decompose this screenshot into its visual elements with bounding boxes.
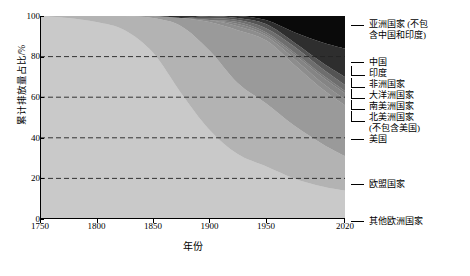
- y-tick-mark-20: [40, 178, 44, 179]
- x-tick-label-1900: 1900: [186, 222, 232, 231]
- y-tick-label-20: 20: [10, 174, 40, 183]
- legend-label-oceania: 大洋洲国家: [369, 90, 469, 101]
- legend-item-north-america[interactable]: 北美洲国家 (不包含美国): [369, 112, 469, 133]
- legend-item-oceania[interactable]: 大洋洲国家: [369, 90, 469, 101]
- legend-label-north-america: 北美洲国家 (不包含美国): [369, 112, 469, 133]
- legend-bracket-south-america: [351, 100, 365, 110]
- y-tick-mark-60: [40, 97, 44, 98]
- x-tick-mark-1900: [209, 219, 210, 223]
- legend-item-africa[interactable]: 非洲国家: [369, 79, 469, 90]
- legend-label-south-america: 南美洲国家: [369, 101, 469, 112]
- y-tick-mark-40: [40, 138, 44, 139]
- legend-item-usa[interactable]: 美国: [369, 134, 469, 145]
- x-tick-mark-1850: [153, 219, 154, 223]
- x-tick-label-1800: 1800: [74, 222, 120, 231]
- legend-item-asia-other[interactable]: 亚洲国家 (不包 含中国和印度): [369, 19, 469, 40]
- stacked-area-svg: [40, 16, 345, 219]
- x-tick-mark-1950: [266, 219, 267, 223]
- y-axis: 100 80 60 40 20 0 累计排放量占比/%: [0, 0, 40, 276]
- legend: 亚洲国家 (不包 含中国和印度) 中国 印度 非洲国家 大洋洲国家: [345, 0, 470, 276]
- legend-dash-usa: [351, 139, 364, 140]
- x-tick-mark-1750: [40, 219, 41, 223]
- legend-bracket-africa: [351, 78, 365, 88]
- y-axis-title: 累计排放量占比/%: [14, 20, 28, 150]
- legend-item-india[interactable]: 印度: [369, 68, 469, 79]
- legend-bracket-oceania: [351, 89, 365, 99]
- legend-label-africa: 非洲国家: [369, 79, 469, 90]
- y-tick-mark-80: [40, 57, 44, 58]
- legend-item-eu[interactable]: 欧盟国家: [369, 179, 469, 190]
- y-tick-mark-100: [40, 16, 44, 17]
- legend-dash-asia-other: [351, 25, 364, 26]
- legend-dash-eu: [351, 184, 364, 185]
- legend-dash-china: [351, 62, 364, 63]
- x-tick-label-1950: 1950: [243, 222, 289, 231]
- cumulative-emissions-share-chart: 100 80 60 40 20 0 累计排放量占比/% 1750 1800 18…: [0, 0, 470, 276]
- legend-item-china[interactable]: 中国: [369, 57, 469, 68]
- x-tick-label-1850: 1850: [130, 222, 176, 231]
- x-axis-title: 年份: [40, 238, 345, 253]
- legend-item-south-america[interactable]: 南美洲国家: [369, 101, 469, 112]
- plot-area: [40, 16, 345, 219]
- x-tick-mark-1800: [97, 219, 98, 223]
- legend-label-asia-other: 亚洲国家 (不包 含中国和印度): [369, 19, 469, 40]
- x-tick-label-1750: 1750: [17, 222, 63, 231]
- legend-bracket-north-america: [351, 111, 365, 122]
- legend-label-china: 中国: [369, 57, 469, 68]
- legend-label-other-europe: 其他欧洲国家: [369, 216, 469, 227]
- legend-item-other-europe[interactable]: 其他欧洲国家: [369, 216, 469, 227]
- legend-bracket-india: [351, 66, 365, 76]
- legend-label-eu: 欧盟国家: [369, 179, 469, 190]
- legend-label-usa: 美国: [369, 134, 469, 145]
- legend-dash-other-europe: [351, 221, 364, 222]
- legend-label-india: 印度: [369, 68, 469, 79]
